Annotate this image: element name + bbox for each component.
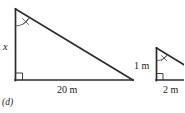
small-triangle-hypotenuse <box>157 48 185 70</box>
large-triangle-hypotenuse <box>16 9 134 80</box>
figure-drawing-canvas <box>0 0 184 113</box>
large-triangle-right-angle-icon <box>16 73 23 80</box>
small-triangle-vertical-leg-label: 1 m <box>134 61 149 71</box>
large-triangle-base-label: 20 m <box>57 85 77 95</box>
figure-part-label: (d) <box>2 98 13 108</box>
large-triangle-group <box>15 9 133 81</box>
large-triangle-angle-cross-icon <box>23 19 29 25</box>
small-triangle-base-label: 2 m <box>163 85 178 95</box>
small-triangle-angle-cross-icon <box>162 56 167 61</box>
large-triangle-vertical-leg-label: x <box>3 42 8 53</box>
small-triangle-group <box>156 48 184 81</box>
geometry-figure: x 20 m 1 m 2 m (d) <box>0 0 184 113</box>
small-triangle-right-angle-icon <box>157 74 164 81</box>
